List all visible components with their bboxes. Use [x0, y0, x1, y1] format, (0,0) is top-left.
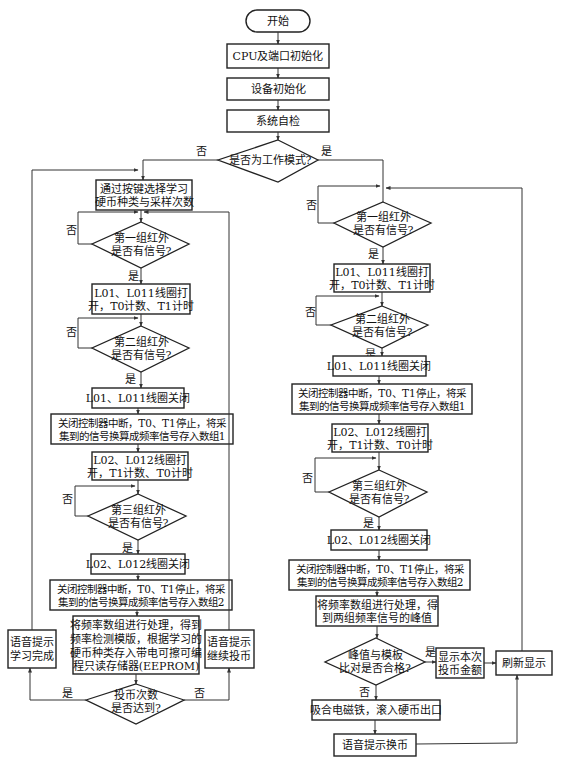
svg-text:L01、L011线圈打: L01、L011线圈打 — [335, 265, 429, 279]
start-node: 开始 — [246, 10, 310, 32]
work-coil2-off-box: L02、L012线圈关闭 — [327, 530, 432, 550]
work-coil2-on-box: L02、L012线圈打 开，T1计数、T0计时 — [327, 424, 433, 452]
learn-ir2-decision: 第二组红外 是否有信号? — [92, 326, 189, 372]
svg-text:硬币种类与采样次数: 硬币种类与采样次数 — [95, 195, 194, 209]
learn-continue-box: 语音提示 继续投币 — [205, 630, 254, 668]
no-label: 否 — [194, 687, 205, 700]
svg-text:频率检测模版，根据学习的: 频率检测模版，根据学习的 — [70, 632, 202, 646]
svg-text:投币金额: 投币金额 — [438, 663, 482, 677]
svg-text:是否有信号?: 是否有信号? — [111, 244, 172, 258]
learn-store1-box: 关闭控制器中断，T0、T1停止，将采 集到的信号换算成频率信号存入数组1 — [51, 414, 233, 444]
svg-text:设备初始化: 设备初始化 — [251, 82, 306, 96]
yes-label: 是 — [363, 517, 374, 530]
yes-label: 是 — [425, 646, 436, 659]
svg-text:通过按键选择学习: 通过按键选择学习 — [100, 182, 188, 196]
svg-text:峰值与模板: 峰值与模板 — [348, 648, 403, 662]
svg-text:集到的信号换算成频率信号存入数组1: 集到的信号换算成频率信号存入数组1 — [59, 430, 226, 442]
svg-text:L01、L011线圈关闭: L01、L011线圈关闭 — [86, 391, 191, 405]
learn-coil1-off-box: L01、L011线圈关闭 — [86, 388, 191, 408]
learn-coil1-on-box: L01、L011线圈打 开，T0计数、T1计时 — [88, 284, 194, 314]
no-label: 否 — [66, 224, 77, 237]
svg-text:程只读存储器(EEPROM): 程只读存储器(EEPROM) — [73, 659, 200, 673]
work-ir3-decision: 第三组红外 是否有信号? — [329, 470, 427, 517]
self-check-box: 系统自检 — [227, 110, 329, 132]
svg-text:语音提示: 语音提示 — [207, 635, 251, 649]
flowchart: 开始 CPU及端口初始化 设备初始化 系统自检 是否为工作模式? 否 是 通过按… — [0, 0, 564, 764]
mode-yes-label: 是 — [321, 145, 332, 158]
mode-no-label: 否 — [196, 145, 207, 158]
svg-text:关闭控制器中断，T0、T1停止，将采: 关闭控制器中断，T0、T1停止，将采 — [57, 583, 225, 595]
svg-text:L02、L012线圈打: L02、L012线圈打 — [93, 453, 187, 467]
svg-text:继续投币: 继续投币 — [207, 649, 251, 663]
svg-text:语音提示换币: 语音提示换币 — [342, 738, 408, 752]
no-label: 否 — [306, 199, 317, 212]
svg-text:是否达到?: 是否达到? — [111, 702, 161, 715]
work-store2-box: 关闭控制器中断，T0、T1停止，将采 集到的信号换算成频率信号存入数组2 — [289, 560, 470, 590]
svg-text:L01、L011线圈关闭: L01、L011线圈关闭 — [327, 359, 432, 373]
svg-text:是否有信号?: 是否有信号? — [349, 492, 410, 506]
work-voice-change-box: 语音提示换币 — [334, 734, 416, 756]
svg-text:第三组红外: 第三组红外 — [111, 503, 166, 517]
mode-decision: 是否为工作模式? — [218, 140, 318, 182]
learn-count-decision: 投币次数 是否达到? — [86, 684, 184, 724]
learn-select-box: 通过按键选择学习 硬币种类与采样次数 — [95, 180, 194, 210]
work-store1-box: 关闭控制器中断，T0、T1停止，将采 集到的信号换算成频率信号存入数组1 — [292, 384, 472, 414]
no-label: 否 — [359, 686, 370, 699]
svg-text:吸合电磁铁，滚入硬币出口: 吸合电磁铁，滚入硬币出口 — [310, 703, 442, 717]
svg-text:将频率数组进行处理，得: 将频率数组进行处理，得 — [317, 598, 438, 612]
svg-text:关闭控制器中断，T0、T1停止，将采: 关闭控制器中断，T0、T1停止，将采 — [58, 417, 226, 429]
yes-label: 是 — [122, 542, 133, 555]
work-ir1-decision: 第一组红外 是否有信号? — [334, 202, 431, 247]
no-label: 否 — [66, 326, 77, 339]
svg-text:刷新显示: 刷新显示 — [502, 656, 546, 670]
learn-done-box: 语音提示 学习完成 — [8, 630, 56, 668]
yes-label: 是 — [128, 270, 139, 283]
work-match-decision: 峰值与模板 比对是否合格? — [325, 638, 425, 685]
svg-text:集到的信号换算成频率信号存入数组2: 集到的信号换算成频率信号存入数组2 — [297, 576, 464, 588]
svg-text:是否有信号?: 是否有信号? — [353, 223, 414, 237]
learn-coil2-off-box: L02、L012线圈关闭 — [86, 554, 191, 574]
svg-text:是否为工作模式?: 是否为工作模式? — [229, 154, 312, 167]
svg-text:到两组频率信号的峰值: 到两组频率信号的峰值 — [322, 611, 432, 625]
svg-text:第一组红外: 第一组红外 — [114, 231, 169, 245]
svg-text:关闭控制器中断，T0、T1停止，将采: 关闭控制器中断，T0、T1停止，将采 — [296, 563, 464, 575]
learn-ir3-decision: 第三组红外 是否有信号? — [88, 494, 186, 540]
connector — [143, 160, 218, 180]
svg-text:集到的信号换算成频率信号存入数组1: 集到的信号换算成频率信号存入数组1 — [299, 400, 466, 412]
cpu-init-box: CPU及端口初始化 — [227, 44, 329, 68]
learn-coil2-on-box: L02、L012线圈打 开，T1计数、T0计时 — [87, 452, 193, 480]
svg-text:L02、L012线圈关闭: L02、L012线圈关闭 — [86, 557, 191, 571]
svg-text:L01、L011线圈打: L01、L011线圈打 — [94, 286, 188, 300]
svg-text:开，T1计数、T0计时: 开，T1计数、T0计时 — [87, 467, 193, 480]
work-ir2-decision: 第二组红外 是否有信号? — [331, 306, 428, 348]
svg-text:显示本次: 显示本次 — [438, 650, 482, 664]
svg-text:关闭控制器中断，T0、T1停止，将采: 关闭控制器中断，T0、T1停止，将采 — [298, 387, 466, 399]
work-refresh-box: 刷新显示 — [496, 651, 552, 675]
svg-text:第三组红外: 第三组红外 — [352, 479, 407, 493]
yes-label: 是 — [368, 248, 379, 261]
no-label: 否 — [62, 493, 73, 506]
svg-text:是否有信号?: 是否有信号? — [108, 516, 169, 530]
svg-text:集到的信号换算成频率信号存入数组2: 集到的信号换算成频率信号存入数组2 — [58, 596, 225, 608]
device-init-box: 设备初始化 — [227, 78, 329, 100]
no-label: 否 — [305, 306, 316, 319]
svg-text:学习完成: 学习完成 — [10, 649, 54, 663]
learn-store2-box: 关闭控制器中断，T0、T1停止，将采 集到的信号换算成频率信号存入数组2 — [50, 580, 232, 610]
svg-text:硬币种类存入带电可擦可编: 硬币种类存入带电可擦可编 — [70, 646, 202, 660]
svg-text:第一组红外: 第一组红外 — [356, 210, 411, 224]
svg-text:CPU及端口初始化: CPU及端口初始化 — [233, 49, 324, 63]
work-coil1-off-box: L01、L011线圈关闭 — [327, 356, 432, 376]
work-reject-box: 吸合电磁铁，滚入硬币出口 — [310, 700, 442, 720]
svg-text:开，T0计数、T1计时: 开，T0计数、T1计时 — [88, 300, 194, 313]
svg-text:开始: 开始 — [267, 14, 289, 28]
svg-text:投币次数: 投币次数 — [114, 688, 158, 702]
svg-text:将频率数组进行处理，得到: 将频率数组进行处理，得到 — [70, 618, 202, 632]
svg-text:比对是否合格?: 比对是否合格? — [339, 661, 411, 675]
learn-ir1-decision: 第一组红外 是否有信号? — [92, 222, 189, 268]
no-label: 否 — [302, 472, 313, 485]
svg-text:开，T0计数、T1计时: 开，T0计数、T1计时 — [329, 279, 435, 292]
svg-text:开，T1计数、T0计时: 开，T1计数、T0计时 — [327, 439, 433, 452]
learn-template-box: 将频率数组进行处理，得到 频率检测模版，根据学习的 硬币种类存入带电可擦可编 程… — [70, 616, 202, 674]
svg-text:是否有信号?: 是否有信号? — [352, 325, 413, 339]
svg-text:L02、L012线圈打: L02、L012线圈打 — [333, 425, 427, 439]
